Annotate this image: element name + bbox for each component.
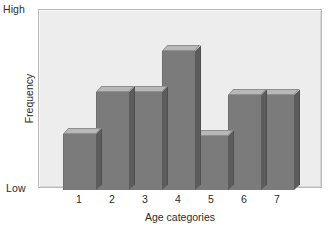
bar-side-face: [294, 90, 300, 190]
bar-side-face: [162, 87, 168, 190]
x-axis-tick-label: 2: [102, 193, 122, 205]
x-axis-tick-label: 6: [234, 193, 254, 205]
x-axis-ticks: 1234567: [38, 193, 322, 207]
bar-side-face: [228, 131, 234, 190]
plot-area: [38, 9, 322, 188]
bar-top-face: [162, 45, 200, 51]
x-axis-tick-label: 4: [168, 193, 188, 205]
bar-chart-figure: High Low Frequency 1234567 Age categorie…: [0, 0, 330, 231]
bar-side-face: [195, 46, 201, 190]
x-axis-title: Age categories: [38, 211, 322, 223]
y-axis-title: Frequency: [22, 9, 36, 188]
bar-side-face: [261, 90, 267, 190]
x-axis-tick-label: 1: [69, 193, 89, 205]
bar-top-face: [63, 128, 101, 134]
bar-side-face: [96, 129, 102, 190]
x-axis-tick-label: 7: [267, 193, 287, 205]
x-axis-tick-label: 5: [201, 193, 221, 205]
bar-front-face: [63, 134, 96, 190]
bar: [63, 134, 96, 190]
x-axis-tick-label: 3: [135, 193, 155, 205]
bar-series: [39, 10, 323, 189]
bar-top-face: [228, 89, 266, 95]
bar-side-face: [129, 87, 135, 190]
bar-top-face: [96, 86, 134, 92]
